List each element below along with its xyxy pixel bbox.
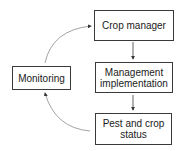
node-monitoring-label: Monitoring: [18, 73, 65, 84]
node-management-label-line1: Management: [105, 67, 163, 78]
node-crop-manager: Crop manager: [94, 10, 174, 41]
node-management-implementation: Management implementation: [95, 62, 173, 93]
node-monitoring: Monitoring: [12, 66, 71, 90]
node-management-label-line2: implementation: [100, 78, 168, 89]
arrow-pest-status-to-monitoring: [45, 93, 90, 131]
node-pest-crop-status: Pest and crop status: [95, 113, 172, 145]
node-pest-label-line2: status: [120, 129, 147, 140]
node-pest-label-line1: Pest and crop: [103, 118, 165, 129]
node-crop-manager-label: Crop manager: [102, 20, 166, 31]
arrow-monitoring-to-crop-manager: [45, 26, 91, 63]
